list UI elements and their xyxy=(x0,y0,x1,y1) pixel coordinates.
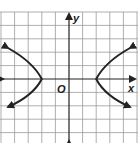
coordinate-plane: y x O xyxy=(0,0,138,143)
axes xyxy=(3,14,135,141)
origin-label: O xyxy=(57,83,66,95)
x-axis-label: x xyxy=(127,82,135,94)
y-axis-label: y xyxy=(72,12,80,24)
right-branch xyxy=(96,48,130,107)
left-branch xyxy=(8,48,42,107)
